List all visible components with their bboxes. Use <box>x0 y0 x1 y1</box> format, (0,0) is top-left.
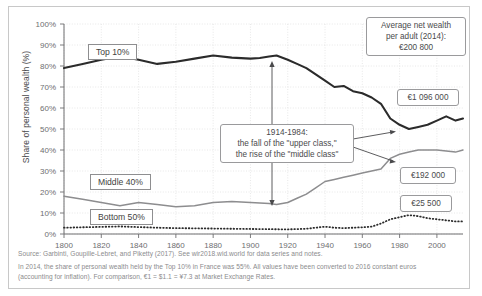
svg-text:100%: 100% <box>36 20 56 29</box>
callout-annotation-1914-1984: 1914-1984: the fall of the "upper class,… <box>220 124 354 163</box>
svg-text:70%: 70% <box>40 83 56 92</box>
plot-area: Share of personal wealth (%) 0%10%20%30%… <box>8 6 470 289</box>
y-axis-ticks: 0%10%20%30%40%50%60%70%80%90%100% <box>36 20 64 239</box>
callout-avg-line1: Average net wealth <box>372 20 460 31</box>
series-label-bottom50: Bottom 50% <box>90 209 153 225</box>
annotation-line2: the fall of the "upper class," <box>226 138 348 149</box>
svg-text:90%: 90% <box>40 41 56 50</box>
annotation-line3: the rise of the "middle class" <box>226 149 348 160</box>
callout-avg-line2: per adult (2014): <box>372 31 460 42</box>
svg-text:10%: 10% <box>40 209 56 218</box>
callout-value-top10: €1 096 000 <box>397 89 459 106</box>
svg-text:60%: 60% <box>40 104 56 113</box>
svg-text:0%: 0% <box>44 230 56 239</box>
series-label-middle40: Middle 40% <box>90 174 151 190</box>
annotation-line1: 1914-1984: <box>226 127 348 138</box>
callout-average-net-wealth: Average net wealth per adult (2014): €20… <box>366 17 466 56</box>
svg-text:30%: 30% <box>40 167 56 176</box>
callout-value-middle40: €192 000 <box>400 167 456 184</box>
footnote-note: In 2014, the share of personal wealth he… <box>18 262 450 282</box>
svg-text:20%: 20% <box>40 188 56 197</box>
figure-container: Share of personal wealth (%) 0%10%20%30%… <box>0 0 482 296</box>
footnote-source: Source: Garbinti, Goupille-Lebret, and P… <box>18 249 448 259</box>
svg-text:40%: 40% <box>40 146 56 155</box>
svg-text:80%: 80% <box>40 62 56 71</box>
callout-avg-line3: €200 800 <box>372 42 460 53</box>
x-axis-ticks: 1800182018401860188019001920194019601980… <box>55 234 446 250</box>
svg-text:50%: 50% <box>40 125 56 134</box>
series-label-top10: Top 10% <box>88 44 137 60</box>
callout-value-bottom50: €25 500 <box>400 195 452 212</box>
